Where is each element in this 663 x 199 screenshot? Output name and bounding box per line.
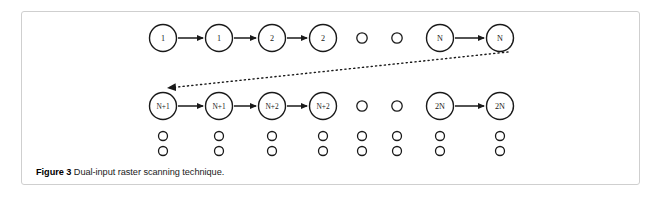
figure-container: 1122NNN+1N+1N+2N+22N2N Figure 3 Dual-inp… [0, 0, 663, 199]
diagram-row-row-dots-2 [159, 147, 505, 156]
node-label: N [437, 34, 443, 43]
diagram-layer: 1122NNN+1N+1N+2N+22N2N [150, 25, 514, 156]
node-label: 2N [495, 102, 505, 111]
placeholder-circle [436, 147, 445, 156]
diagram-row-row-second: N+1N+1N+2N+22N2N [150, 93, 514, 120]
placeholder-circle [358, 132, 367, 141]
placeholder-circle [357, 101, 367, 111]
placeholder-circle [159, 147, 168, 156]
node-label: N+2 [265, 102, 279, 111]
placeholder-circle [159, 132, 168, 141]
placeholder-circle [392, 33, 402, 43]
figure-caption-text: Dual-input raster scanning technique. [71, 167, 224, 177]
node-label: N+2 [316, 102, 330, 111]
node-label: N+1 [212, 102, 226, 111]
placeholder-circle [268, 132, 277, 141]
placeholder-circle [268, 147, 277, 156]
node-label: N+1 [156, 102, 170, 111]
node-label: 2 [321, 34, 325, 43]
figure-caption-label: Figure 3 [36, 167, 71, 177]
wrap-around-arrow [168, 52, 508, 88]
placeholder-circle [436, 132, 445, 141]
placeholder-circle [358, 147, 367, 156]
node-label: 1 [217, 34, 221, 43]
node-label: N [497, 34, 503, 43]
placeholder-circle [496, 132, 505, 141]
placeholder-circle [496, 147, 505, 156]
node-label: 1 [161, 34, 165, 43]
placeholder-circle [319, 132, 328, 141]
placeholder-circle [392, 101, 402, 111]
diagram-row-row-top: 1122NN [150, 25, 514, 52]
placeholder-circle [215, 147, 224, 156]
diagram-row-row-dots-1 [159, 132, 505, 141]
placeholder-circle [215, 132, 224, 141]
placeholder-circle [319, 147, 328, 156]
placeholder-circle [357, 33, 367, 43]
node-label: 2N [435, 102, 445, 111]
placeholder-circle [393, 147, 402, 156]
figure-caption: Figure 3 Dual-input raster scanning tech… [36, 166, 596, 178]
placeholder-circle [393, 132, 402, 141]
node-label: 2 [270, 34, 274, 43]
